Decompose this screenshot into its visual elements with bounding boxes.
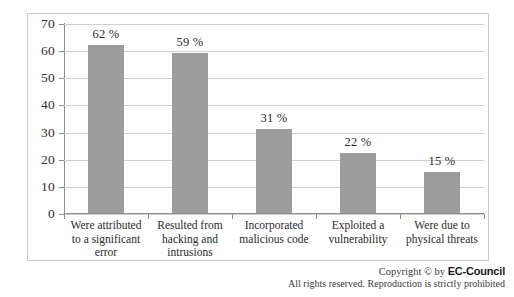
y-tick-mark xyxy=(59,105,64,106)
category-label-line: Resulted from xyxy=(148,219,232,233)
category-label-line: to a significant xyxy=(64,233,148,247)
category-label-line: Exploited a xyxy=(316,219,400,233)
gridline xyxy=(64,24,484,25)
bar-value-label: 59 % xyxy=(177,35,204,50)
gridline xyxy=(64,78,484,79)
category-label-line: Were due to xyxy=(400,219,484,233)
chart-frame: 010203040506070 62 %59 %31 %22 %15 % Wer… xyxy=(27,13,489,261)
footer: Copyright © by EC-Council All rights res… xyxy=(0,265,514,290)
y-tick-label: 70 xyxy=(41,16,55,32)
category-label-line: error xyxy=(64,246,148,260)
y-tick-label: 30 xyxy=(41,124,55,140)
y-tick-mark xyxy=(59,24,64,25)
gridline xyxy=(64,214,484,215)
bar-value-label: 31 % xyxy=(261,111,288,126)
category-label-line: physical threats xyxy=(400,233,484,247)
category-label-line: Were attributed xyxy=(64,219,148,233)
category-label-line: vulnerability xyxy=(316,233,400,247)
category-label: Were attributedto a significanterror xyxy=(64,219,148,260)
y-tick-mark xyxy=(59,187,64,188)
gridline xyxy=(64,51,484,52)
bar-value-label: 62 % xyxy=(93,27,120,42)
bar[interactable]: 59 % xyxy=(172,53,208,213)
gridline xyxy=(64,105,484,106)
category-label: Were due tophysical threats xyxy=(400,219,484,246)
y-tick-label: 0 xyxy=(48,206,55,222)
category-label-line: malicious code xyxy=(232,233,316,247)
copyright-line: Copyright © by EC-Council xyxy=(0,265,505,278)
y-tick-label: 20 xyxy=(41,151,55,167)
ec-council-brand: EC-Council xyxy=(448,265,505,277)
category-label: Resulted fromhacking andintrusions xyxy=(148,219,232,260)
category-label-line: Incorporated xyxy=(232,219,316,233)
y-tick-label: 10 xyxy=(41,179,55,195)
category-label: Incorporatedmalicious code xyxy=(232,219,316,246)
category-label-line: hacking and xyxy=(148,233,232,247)
category-label: Exploited avulnerability xyxy=(316,219,400,246)
bar[interactable]: 15 % xyxy=(424,172,460,213)
bar-value-label: 22 % xyxy=(345,135,372,150)
x-tick-mark xyxy=(484,214,485,219)
y-tick-mark xyxy=(59,51,64,52)
copyright-text: Copyright © by xyxy=(379,266,448,277)
bar-value-label: 15 % xyxy=(429,154,456,169)
bar[interactable]: 22 % xyxy=(340,153,376,213)
plot-area: 010203040506070 62 %59 %31 %22 %15 % xyxy=(64,24,484,214)
y-tick-label: 40 xyxy=(41,97,55,113)
x-axis-category-labels: Were attributedto a significanterrorResu… xyxy=(64,219,484,269)
y-tick-mark xyxy=(59,78,64,79)
bar[interactable]: 62 % xyxy=(88,45,124,213)
rights-reserved-line: All rights reserved. Reproduction is str… xyxy=(0,278,505,290)
y-tick-mark xyxy=(59,133,64,134)
bar[interactable]: 31 % xyxy=(256,129,292,213)
y-tick-mark xyxy=(59,160,64,161)
y-tick-label: 50 xyxy=(41,70,55,86)
category-label-line: intrusions xyxy=(148,246,232,260)
y-tick-label: 60 xyxy=(41,43,55,59)
